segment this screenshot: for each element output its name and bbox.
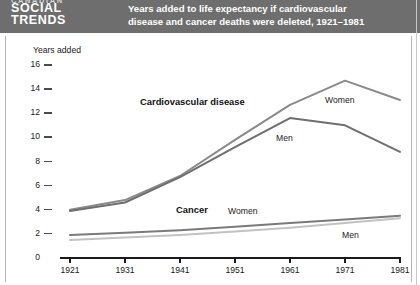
series-label: Men — [276, 133, 293, 143]
series-label: Men — [342, 230, 359, 240]
group-label: Cardiovascular disease — [140, 96, 245, 107]
chart-figure: CANADIAN SOCIAL TRENDS Years added to li… — [0, 0, 420, 285]
series-line — [70, 118, 400, 211]
group-label: Cancer — [176, 204, 208, 215]
series-lines — [0, 0, 420, 285]
series-label: Women — [228, 206, 257, 216]
series-label: Women — [325, 95, 354, 105]
plot-area: Years added 0246810121416 19211931194119… — [0, 0, 420, 285]
